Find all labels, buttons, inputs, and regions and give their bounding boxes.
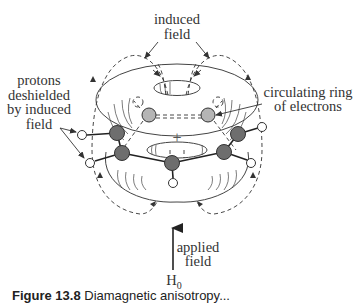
carbon-atom bbox=[217, 145, 232, 160]
label-line: induced bbox=[150, 12, 204, 27]
carbon-atom bbox=[115, 146, 130, 161]
pi-electron-atom bbox=[142, 108, 156, 122]
center-plus-symbol: + bbox=[170, 130, 184, 145]
label-line: field bbox=[150, 27, 204, 42]
h0-main: H bbox=[166, 272, 176, 288]
applied-field-label: applied field bbox=[176, 240, 220, 268]
label-line: circulating ring bbox=[260, 85, 354, 99]
label-line: field bbox=[176, 254, 220, 268]
protons-deshielded-label: protons deshielded by induced field bbox=[4, 73, 74, 131]
hydrogen-atom bbox=[86, 159, 95, 168]
label-line: field bbox=[4, 117, 74, 132]
induced-field-label: induced field bbox=[150, 12, 204, 42]
pi-electron-atom bbox=[201, 108, 215, 122]
hydrogen-atom bbox=[258, 123, 267, 132]
label-line: protons bbox=[4, 73, 74, 88]
hydrogen-atom bbox=[247, 159, 256, 168]
circulating-ring-label: circulating ring of electrons bbox=[260, 85, 354, 113]
hydrogen-atom bbox=[169, 179, 178, 188]
figure-caption: Figure 13.8 Diamagnetic anisotropy... bbox=[12, 288, 230, 303]
atoms bbox=[78, 108, 267, 188]
caption-text: Diamagnetic anisotropy... bbox=[81, 288, 230, 303]
caption-number: Figure 13.8 bbox=[12, 288, 81, 303]
carbon-atom bbox=[231, 127, 246, 142]
carbon-atom bbox=[110, 126, 125, 141]
label-line: by induced bbox=[4, 102, 74, 117]
label-line: applied bbox=[176, 240, 220, 254]
label-line: of electrons bbox=[260, 99, 354, 113]
carbon-atom bbox=[165, 156, 180, 171]
label-line: deshielded bbox=[4, 88, 74, 103]
hydrogen-atom bbox=[78, 131, 87, 140]
